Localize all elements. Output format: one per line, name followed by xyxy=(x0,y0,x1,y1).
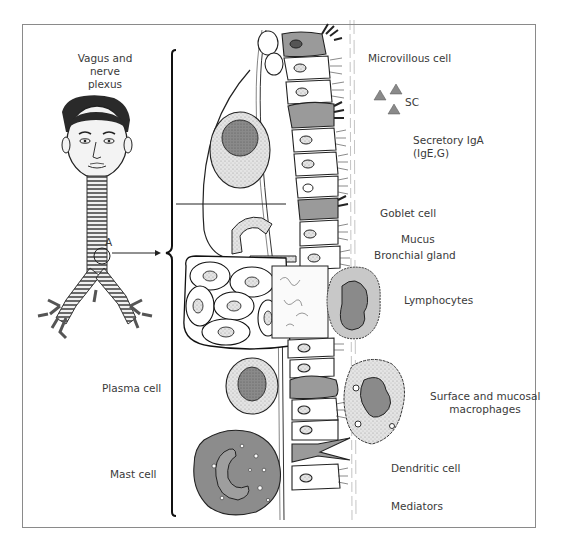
lymphocytes-label: Lymphocytes xyxy=(404,294,473,307)
sc-triangles xyxy=(374,84,402,114)
macrophages-line-2: macrophages xyxy=(430,403,540,416)
vagus-line-1: Vagus and xyxy=(70,52,140,65)
plasma-cell-upper xyxy=(210,112,270,188)
mast-cell-illustration xyxy=(194,430,281,515)
lymphocyte xyxy=(327,267,380,339)
microvillous-cell-label: Microvillous cell xyxy=(368,52,451,65)
lower-epithelium xyxy=(288,338,350,490)
macrophage xyxy=(344,359,404,444)
bracket xyxy=(166,50,176,516)
vagus-line-2: nerve xyxy=(70,65,140,78)
plasma-cell-label: Plasma cell xyxy=(102,382,161,395)
macrophages-line-1: Surface and mucosal xyxy=(430,390,540,403)
bronchial-gland-duct xyxy=(232,217,296,262)
mediators-label: Mediators xyxy=(391,500,443,513)
secretory-iga-label: Secretory IgA (IgE,G) xyxy=(413,134,484,160)
mast-cell-label: Mast cell xyxy=(110,468,157,481)
columnar-epithelium xyxy=(258,24,350,270)
dendritic-cell-label: Dendritic cell xyxy=(391,462,460,475)
secretory-iga-line-1: Secretory IgA xyxy=(413,134,484,147)
head-illustration xyxy=(62,95,132,178)
vagus-line-3: plexus xyxy=(70,78,140,91)
goblet-cell-label: Goblet cell xyxy=(380,207,436,220)
a-marker-label: A xyxy=(105,236,112,249)
gland-acinus xyxy=(184,256,328,349)
bronchial-gland-label: Bronchial gland xyxy=(374,249,456,262)
plasma-cell-lower xyxy=(226,358,278,414)
vagus-label: Vagus and nerve plexus xyxy=(70,52,140,91)
sc-label: SC xyxy=(405,96,419,109)
mucus-label: Mucus xyxy=(401,233,435,246)
macrophages-label: Surface and mucosal macrophages xyxy=(430,390,540,416)
trachea-illustration xyxy=(38,176,161,338)
secretory-iga-line-2: (IgE,G) xyxy=(413,147,484,160)
